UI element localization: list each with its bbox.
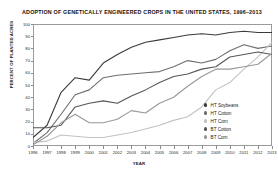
y-tick-label: 80 [16, 46, 30, 51]
legend-item-label: HT Soybeans [211, 103, 239, 108]
x-tick-mark [174, 146, 175, 149]
y-tick-label: 70 [16, 58, 30, 63]
y-tick-label: 20 [16, 119, 30, 124]
chart-legend: HT SoybeansHT CottonHT CornBT CottonBT C… [204, 101, 238, 141]
chart-figure: ADOPTION OF GENETICALLY ENGINEERED CROPS… [0, 0, 278, 176]
legend-marker-dot-icon [204, 111, 207, 114]
x-axis-label: YEAR [0, 161, 278, 166]
x-tick-mark [75, 146, 76, 149]
chart-title: ADOPTION OF GENETICALLY ENGINEERED CROPS… [22, 9, 262, 15]
x-tick-mark [61, 146, 62, 149]
y-axis-label: PERCENT OF PLANTED ACRES [9, 20, 14, 90]
legend-item: HT Corn [204, 117, 238, 125]
y-tick-label: 90 [16, 34, 30, 39]
legend-item-label: BT Cotton [211, 127, 232, 132]
legend-marker-dot-icon [204, 119, 207, 122]
x-tick-mark [103, 146, 104, 149]
x-tick-mark [47, 146, 48, 149]
legend-item-label: HT Cotton [211, 111, 232, 116]
legend-item: BT Corn [204, 133, 238, 141]
legend-item-label: HT Corn [211, 119, 228, 124]
legend-marker-dot-icon [204, 103, 207, 106]
x-tick-label: 2013 [264, 150, 278, 155]
x-tick-mark [160, 146, 161, 149]
x-tick-mark [131, 146, 132, 149]
legend-marker-dot-icon [204, 135, 207, 138]
x-tick-mark [258, 146, 259, 149]
y-tick-label: 60 [16, 70, 30, 75]
x-tick-mark [230, 146, 231, 149]
x-tick-mark [188, 146, 189, 149]
x-tick-mark [216, 146, 217, 149]
x-tick-mark [145, 146, 146, 149]
x-tick-mark [244, 146, 245, 149]
x-tick-mark [272, 146, 273, 149]
y-tick-label: 0 [16, 144, 30, 149]
legend-item-label: BT Corn [211, 135, 228, 140]
x-tick-mark [202, 146, 203, 149]
y-tick-label: 30 [16, 107, 30, 112]
legend-item: BT Cotton [204, 125, 238, 133]
legend-marker-dot-icon [204, 127, 207, 130]
y-tick-label: 10 [16, 131, 30, 136]
y-tick-label: 50 [16, 83, 30, 88]
legend-item: HT Soybeans [204, 101, 238, 109]
legend-item: HT Cotton [204, 109, 238, 117]
y-tick-label: 40 [16, 95, 30, 100]
x-tick-mark [117, 146, 118, 149]
x-tick-mark [33, 146, 34, 149]
x-tick-mark [89, 146, 90, 149]
y-tick-label: 100 [16, 22, 30, 27]
